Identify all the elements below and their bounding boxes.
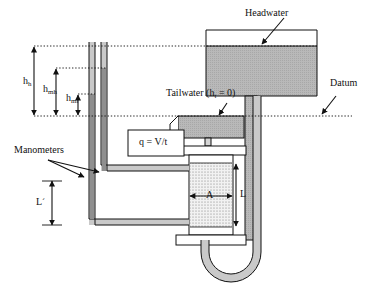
diagram-canvas xyxy=(0,0,367,284)
datum-label: Datum xyxy=(330,78,357,88)
manometers-leader-line-lower xyxy=(48,160,84,177)
tailwater-label-tail: = 0) xyxy=(216,87,235,98)
h-head-label: hh xyxy=(23,76,32,88)
discharge-equation-label: q = V/t xyxy=(139,137,167,147)
headwater-label: Headwater xyxy=(245,8,288,18)
permeameter-diagram: Headwater Tailwater (ht = 0) Datum Manom… xyxy=(0,0,367,284)
h-mh-label: hmh xyxy=(43,84,57,96)
manometer-upper-water-column xyxy=(102,68,106,171)
tailwater-water-fill xyxy=(178,116,244,138)
tailwater-drain-stem xyxy=(205,138,211,146)
l-prime-label: L´ xyxy=(36,197,45,207)
manometers-label: Manometers xyxy=(14,145,64,155)
column-bottom-flange xyxy=(176,235,246,245)
tailwater-label-text: Tailwater (h xyxy=(166,87,214,98)
h-ml-label: hml xyxy=(66,93,78,105)
h-mh-label-subscript: mh xyxy=(48,88,57,96)
l-length-label: L xyxy=(240,189,246,199)
headwater-leader-line xyxy=(262,18,284,44)
a-area-label: A xyxy=(206,190,213,200)
l-prime-label-mark: ´ xyxy=(42,197,45,207)
column-top-flange xyxy=(176,146,246,155)
tailwater-label: Tailwater (ht = 0) xyxy=(166,88,235,100)
h-ml-label-subscript: ml xyxy=(71,97,78,105)
datum-leader-line xyxy=(322,96,336,114)
manometer-lower-water-column xyxy=(90,94,94,219)
h-head-label-subscript: h xyxy=(28,80,32,88)
tailwater-leader-line xyxy=(219,103,227,115)
